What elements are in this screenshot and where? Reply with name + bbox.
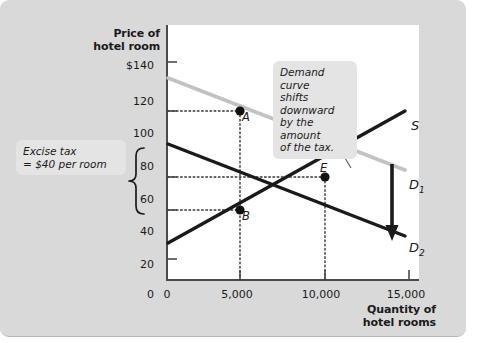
- y-axis-title-line2: hotel room: [76, 40, 160, 53]
- xtick-label-10000: 10,000: [294, 289, 348, 300]
- curve-label-d2: D2: [409, 240, 425, 258]
- curve-label-d2-sub: 2: [419, 248, 425, 258]
- curve-label-d1-base: D: [409, 177, 419, 192]
- excise-tax-callout: Excise tax = $40 per room: [16, 140, 126, 175]
- ytick-label-100: 100: [108, 128, 154, 139]
- point-label-a: A: [242, 110, 250, 124]
- curve-label-s: S: [411, 118, 419, 133]
- excise-tax-bracket: [126, 146, 148, 216]
- ytick-label-40: 40: [108, 226, 154, 237]
- x-axis-title-line2: hotel rooms: [330, 316, 436, 329]
- curve-label-s-text: S: [411, 118, 419, 133]
- ytick-label-120: 120: [108, 96, 154, 107]
- y-axis-ticks: [168, 62, 177, 259]
- curve-label-d2-base: D: [409, 240, 419, 255]
- xtick-label-0: 0: [140, 289, 194, 300]
- ytick-label-140: $140: [108, 60, 154, 71]
- shift-arrow: [386, 164, 399, 241]
- curve-label-d1: D1: [409, 177, 425, 195]
- y-axis-title-line1: Price of: [76, 27, 160, 40]
- point-label-b: B: [242, 209, 250, 223]
- curve-label-d1-sub: 1: [419, 185, 425, 195]
- xtick-label-15000: 15,000: [379, 289, 433, 300]
- economics-figure: Price of hotel room Quantity of hotel ro…: [0, 0, 478, 343]
- x-axis-title-line1: Quantity of: [330, 303, 436, 316]
- demand-shift-callout: Demand curve shifts downward by the amou…: [273, 61, 357, 159]
- y-axis-title: Price of hotel room: [76, 27, 160, 53]
- x-axis-ticks: [240, 270, 409, 279]
- xtick-label-5000: 5,000: [210, 289, 264, 300]
- x-axis-title: Quantity of hotel rooms: [330, 303, 436, 329]
- ytick-label-20: 20: [108, 259, 154, 270]
- point-label-e: E: [320, 161, 327, 175]
